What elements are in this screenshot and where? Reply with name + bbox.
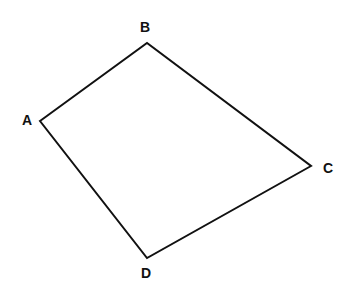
vertex-label-a: A xyxy=(22,112,32,128)
quadrilateral-diagram: A B C D xyxy=(0,0,349,293)
quadrilateral-abcd xyxy=(40,43,311,258)
vertex-label-c: C xyxy=(323,160,333,176)
vertex-label-d: D xyxy=(141,265,151,281)
vertex-label-b: B xyxy=(140,19,150,35)
